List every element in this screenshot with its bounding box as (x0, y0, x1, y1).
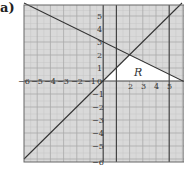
region-label: R (133, 66, 142, 79)
x-tick: 0 (97, 77, 102, 86)
y-tick: −1 (92, 90, 104, 99)
y-tick: 2 (97, 51, 102, 60)
y-tick: −2 (92, 103, 104, 112)
y-tick: 3 (97, 38, 102, 47)
x-tick: −3 (57, 77, 69, 86)
y-tick: −5 (92, 142, 104, 151)
y-tick: −6 (92, 158, 104, 167)
x-tick: −6 (18, 77, 30, 86)
x-tick: 4 (154, 82, 159, 91)
coordinate-graph: −6 −5 −4 −3 −2 −1 0 2 3 4 5 5 4 3 2 1 −1… (0, 0, 184, 175)
x-tick: −1 (84, 77, 96, 86)
x-tick: −5 (31, 77, 43, 86)
x-tick: −2 (71, 77, 83, 86)
y-tick: −3 (92, 116, 104, 125)
x-tick: 2 (128, 82, 133, 91)
x-tick: 5 (167, 82, 172, 91)
y-tick: 5 (97, 12, 102, 21)
x-tick: −4 (44, 77, 56, 86)
y-tick: −4 (92, 129, 104, 138)
y-tick: 4 (97, 25, 102, 34)
x-tick: 3 (141, 82, 146, 91)
y-tick: 1 (97, 64, 102, 73)
